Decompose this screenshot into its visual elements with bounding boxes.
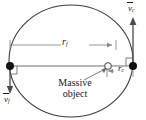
rf-label: rf — [62, 37, 68, 48]
vc-symbol: v — [128, 4, 132, 13]
diagram-canvas — [0, 0, 146, 120]
rc-label: rc — [118, 64, 124, 74]
orbit-ellipse — [9, 5, 133, 117]
orbital-ellipse-diagram: rf rc vc vf Massive object — [0, 0, 146, 120]
vf-label: vf — [4, 95, 10, 105]
vc-subscript: c — [132, 7, 134, 13]
vf-symbol: v — [4, 95, 8, 104]
vf-velocity-arrow — [7, 69, 13, 94]
massive-object-line2: object — [45, 89, 105, 100]
rc-subscript: c — [122, 67, 124, 73]
close-point-dot — [129, 62, 137, 70]
vc-velocity-arrow — [130, 17, 137, 63]
vc-label: vc — [128, 4, 134, 14]
far-point-dot — [6, 62, 14, 70]
vf-subscript: f — [8, 98, 10, 104]
massive-object-label: Massive object — [45, 78, 105, 99]
massive-object-focus-marker — [105, 63, 111, 69]
massive-object-line1: Massive — [45, 78, 105, 89]
rf-subscript: f — [66, 40, 68, 47]
